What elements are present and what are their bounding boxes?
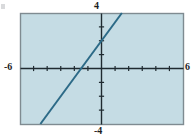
- coordinate-plane: [0, 0, 195, 138]
- axis-label-right: 6: [185, 62, 190, 72]
- axis-label-top: 4: [94, 1, 99, 11]
- scan-artifact: [1, 4, 5, 9]
- axis-label-left: -6: [4, 62, 12, 72]
- graph-figure: 4 -4 -6 6: [0, 0, 195, 138]
- axis-label-bottom: -4: [94, 126, 102, 136]
